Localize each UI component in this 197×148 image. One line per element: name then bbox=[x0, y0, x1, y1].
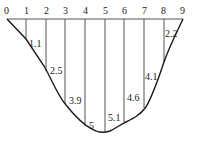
cross-section-diagram: 0 1 2 3 4 5 6 7 8 9 1.1 2.5 3.9 5 5.1 4.… bbox=[0, 0, 197, 148]
station-label-4: 4 bbox=[83, 5, 88, 16]
depth-label-8: 2.2 bbox=[165, 28, 178, 39]
station-label-1: 1 bbox=[24, 5, 29, 16]
depth-label-1: 1.1 bbox=[29, 38, 42, 49]
depth-label-3: 3.9 bbox=[69, 95, 82, 106]
depth-label-5: 5.1 bbox=[108, 112, 121, 123]
station-label-3: 3 bbox=[63, 5, 68, 16]
depth-label-4: 5 bbox=[89, 120, 94, 131]
depth-label-2: 2.5 bbox=[50, 65, 63, 76]
station-label-7: 7 bbox=[142, 5, 147, 16]
depth-label-7: 4.1 bbox=[145, 71, 158, 82]
station-label-6: 6 bbox=[122, 5, 127, 16]
station-label-9: 9 bbox=[180, 5, 185, 16]
station-label-0: 0 bbox=[4, 5, 9, 16]
station-label-5: 5 bbox=[103, 5, 108, 16]
depth-label-6: 4.6 bbox=[127, 92, 140, 103]
station-label-2: 2 bbox=[44, 5, 49, 16]
station-label-8: 8 bbox=[161, 5, 166, 16]
